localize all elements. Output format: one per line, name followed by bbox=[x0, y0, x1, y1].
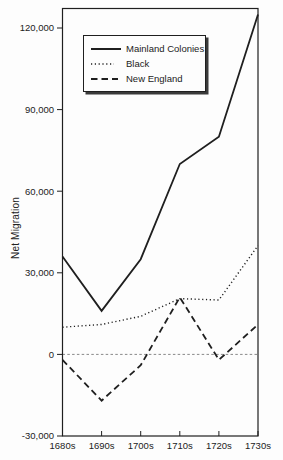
legend-label-black: Black bbox=[126, 58, 149, 69]
svg-text:1700s: 1700s bbox=[128, 440, 154, 451]
svg-text:1710s: 1710s bbox=[167, 440, 193, 451]
svg-text:0: 0 bbox=[49, 349, 54, 360]
svg-text:1730s: 1730s bbox=[245, 440, 271, 451]
y-axis-title: Net Migration bbox=[10, 197, 21, 259]
svg-text:1720s: 1720s bbox=[206, 440, 232, 451]
legend-item-black: Black bbox=[91, 56, 201, 71]
legend-item-new-england: New England bbox=[91, 71, 201, 86]
svg-text:60,000: 60,000 bbox=[25, 186, 54, 197]
dashed-line-sample-icon bbox=[91, 76, 121, 82]
dotted-line-sample-icon bbox=[91, 61, 121, 67]
svg-text:1690s: 1690s bbox=[89, 440, 115, 451]
svg-text:30,000: 30,000 bbox=[25, 267, 54, 278]
svg-text:120,000: 120,000 bbox=[20, 22, 54, 33]
net-migration-chart-page: 120,00090,00060,00030,0000-30,0001680s16… bbox=[0, 0, 283, 460]
solid-line-sample-icon bbox=[91, 46, 121, 52]
legend-label-new-england: New England bbox=[126, 73, 183, 84]
svg-text:1680s: 1680s bbox=[50, 440, 76, 451]
legend-item-mainland-colonies: Mainland Colonies bbox=[91, 41, 201, 56]
svg-text:90,000: 90,000 bbox=[25, 104, 54, 115]
legend-label-mainland-colonies: Mainland Colonies bbox=[126, 43, 204, 54]
legend: Mainland Colonies Black New England bbox=[83, 35, 206, 92]
